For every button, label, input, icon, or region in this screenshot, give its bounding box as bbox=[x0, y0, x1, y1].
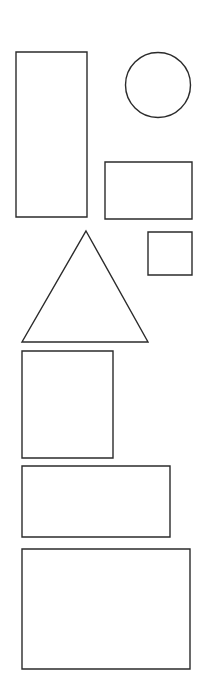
square-rectangle bbox=[22, 351, 113, 458]
triangle bbox=[22, 231, 148, 342]
large-rectangle bbox=[22, 549, 190, 669]
shape-canvas bbox=[0, 0, 207, 683]
tall-rectangle bbox=[16, 52, 87, 217]
small-square bbox=[148, 232, 192, 275]
shape-canvas-root bbox=[0, 0, 207, 683]
medium-rectangle bbox=[105, 162, 192, 219]
circle bbox=[126, 53, 191, 118]
wide-rectangle bbox=[22, 466, 170, 537]
